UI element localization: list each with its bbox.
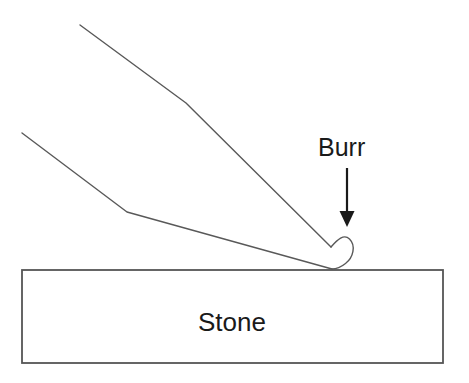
blade-upper-edge: [80, 25, 331, 247]
burr-hook: [331, 237, 353, 269]
burr-pointer-arrow-head: [340, 211, 355, 227]
burr-diagram-figure: Stone Burr: [0, 0, 469, 383]
stone-label: Stone: [198, 307, 266, 337]
burr-label: Burr: [318, 133, 365, 161]
diagram-canvas: Stone Burr: [0, 0, 469, 383]
